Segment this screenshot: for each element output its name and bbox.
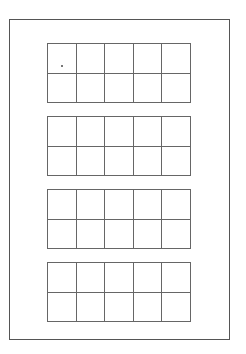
ten-frame-cell	[105, 73, 134, 103]
ten-frame-cell	[133, 190, 162, 220]
ten-frame-cell	[105, 117, 134, 147]
ten-frame-cell	[105, 190, 134, 220]
ten-frame-cell	[76, 146, 105, 176]
ten-frame-cell	[48, 190, 77, 220]
ten-frame-cell	[162, 117, 191, 147]
ten-frame-cell	[162, 219, 191, 249]
ten-frame-cell	[133, 44, 162, 74]
stray-dot-mark	[61, 65, 63, 67]
ten-frame-cell	[76, 73, 105, 103]
ten-frame-cell	[76, 292, 105, 322]
ten-frame-cell	[133, 292, 162, 322]
ten-frame-cell	[162, 190, 191, 220]
ten-frame-4	[47, 262, 191, 322]
ten-frame-cell	[162, 292, 191, 322]
ten-frame-cell	[105, 219, 134, 249]
ten-frame-cell	[48, 117, 77, 147]
ten-frame-cell	[48, 219, 77, 249]
ten-frame-cell	[76, 44, 105, 74]
ten-frame-cell	[162, 73, 191, 103]
ten-frame-cell	[48, 292, 77, 322]
ten-frame-cell	[48, 263, 77, 293]
ten-frame-cell	[105, 146, 134, 176]
ten-frame-cell	[105, 292, 134, 322]
ten-frame-3	[47, 189, 191, 249]
ten-frame-2	[47, 116, 191, 176]
ten-frame-cell	[48, 146, 77, 176]
ten-frame-cell	[105, 263, 134, 293]
ten-frame-cell	[48, 44, 77, 74]
ten-frame-cell	[76, 190, 105, 220]
ten-frame-cell	[162, 44, 191, 74]
ten-frame-cell	[133, 219, 162, 249]
ten-frame-cell	[76, 219, 105, 249]
ten-frame-cell	[133, 146, 162, 176]
ten-frame-cell	[105, 44, 134, 74]
ten-frame-cell	[76, 263, 105, 293]
ten-frame-cell	[133, 117, 162, 147]
ten-frame-cell	[133, 73, 162, 103]
ten-frame-cell	[76, 117, 105, 147]
ten-frame-cell	[133, 263, 162, 293]
ten-frame-cell	[162, 263, 191, 293]
ten-frame-1	[47, 43, 191, 103]
ten-frame-cell	[48, 73, 77, 103]
ten-frame-cell	[162, 146, 191, 176]
